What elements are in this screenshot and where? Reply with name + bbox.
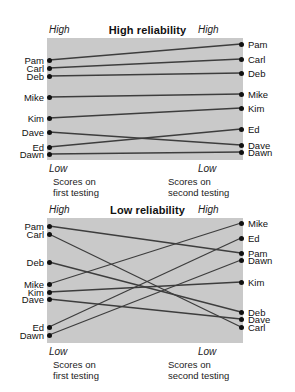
connector-low-mike [49, 223, 241, 284]
dot-high-left-dave [47, 130, 52, 135]
plot-area-low [47, 218, 243, 343]
connector-high-deb [49, 73, 241, 76]
connector-lines-high [47, 38, 243, 160]
axis-top-left-low: High [49, 204, 70, 215]
axis-bottom-right-high: Low [198, 163, 216, 174]
reliability-figure: High reliability High High Low Low Score… [0, 0, 295, 392]
connector-high-carl [49, 59, 241, 68]
label-high-right-carl: Carl [248, 54, 265, 65]
dot-low-right-pam [239, 251, 244, 256]
dot-low-left-carl [47, 232, 52, 237]
label-low-left-dawn: Dawn [20, 330, 44, 341]
label-high-right-dawn: Dawn [248, 147, 272, 158]
dot-high-right-carl [239, 57, 244, 62]
footer-right-low: Scores on second testing [168, 359, 229, 381]
dot-low-right-dave [239, 317, 244, 322]
dot-low-right-mike [239, 221, 244, 226]
dot-high-right-mike [239, 92, 244, 97]
dot-low-left-mike [47, 282, 52, 287]
label-low-left-carl: Carl [27, 229, 44, 240]
axis-top-right-high: High [198, 24, 219, 35]
label-low-right-dawn: Dawn [248, 255, 272, 266]
connector-low-pam [49, 226, 241, 253]
connector-low-dawn [49, 260, 241, 335]
connector-high-ed [49, 129, 241, 147]
label-high-right-pam: Pam [248, 39, 268, 50]
connector-high-pam [49, 44, 241, 60]
footer-left-low: Scores on first testing [53, 359, 99, 381]
dot-low-left-ed [47, 325, 52, 330]
label-low-right-mike: Mike [248, 218, 268, 229]
dot-low-right-carl [239, 325, 244, 330]
dot-low-left-deb [47, 260, 52, 265]
dot-low-left-dave [47, 297, 52, 302]
connector-low-kim [49, 282, 241, 292]
dot-high-left-ed [47, 145, 52, 150]
label-high-right-kim: Kim [248, 103, 264, 114]
dot-high-right-dave [239, 143, 244, 148]
label-high-left-deb: Deb [27, 71, 44, 82]
label-low-right-carl: Carl [248, 322, 265, 333]
dot-high-right-deb [239, 71, 244, 76]
plot-area-high [47, 38, 243, 160]
dot-high-left-kim [47, 116, 52, 121]
dot-low-right-dawn [239, 258, 244, 263]
dot-high-right-kim [239, 106, 244, 111]
connector-low-dave [49, 299, 241, 319]
dot-high-right-ed [239, 127, 244, 132]
dot-high-left-carl [47, 66, 52, 71]
label-high-left-mike: Mike [24, 92, 44, 103]
connector-high-mike [49, 94, 241, 97]
label-low-left-dave: Dave [22, 294, 44, 305]
dot-low-right-deb [239, 310, 244, 315]
axis-top-right-low: High [198, 204, 219, 215]
dot-low-left-dawn [47, 333, 52, 338]
label-high-left-kim: Kim [28, 113, 44, 124]
connector-high-kim [49, 108, 241, 118]
label-low-right-kim: Kim [248, 277, 264, 288]
label-high-left-dawn: Dawn [20, 149, 44, 160]
label-high-right-deb: Deb [248, 68, 265, 79]
label-high-right-ed: Ed [248, 124, 260, 135]
dot-high-left-pam [47, 58, 52, 63]
dot-high-left-dawn [47, 152, 52, 157]
label-low-left-deb: Deb [27, 257, 44, 268]
dot-high-left-deb [47, 74, 52, 79]
label-low-right-ed: Ed [248, 233, 260, 244]
axis-bottom-left-high: Low [49, 163, 67, 174]
label-high-right-mike: Mike [248, 89, 268, 100]
dot-high-left-mike [47, 95, 52, 100]
dot-high-right-pam [239, 42, 244, 47]
dot-low-right-ed [239, 236, 244, 241]
axis-top-left-high: High [49, 24, 70, 35]
dot-low-right-kim [239, 280, 244, 285]
axis-bottom-left-low: Low [49, 346, 67, 357]
connector-high-dawn [49, 152, 241, 154]
label-high-left-dave: Dave [22, 127, 44, 138]
axis-bottom-right-low: Low [198, 346, 216, 357]
dot-low-left-kim [47, 290, 52, 295]
dot-low-left-pam [47, 224, 52, 229]
connector-lines-low [47, 218, 243, 343]
dot-high-right-dawn [239, 150, 244, 155]
